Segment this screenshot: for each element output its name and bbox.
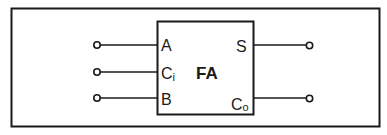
terminal-b <box>94 95 100 101</box>
output-co <box>253 95 313 101</box>
label-b: B <box>161 91 172 108</box>
terminal-s <box>306 42 312 48</box>
output-s <box>253 42 313 48</box>
block-label: FA <box>196 64 218 83</box>
input-a <box>94 42 158 48</box>
label-a: A <box>161 37 172 54</box>
input-b <box>94 95 158 101</box>
full-adder-diagram: A Ci B FA S Co <box>0 0 387 135</box>
terminal-co <box>306 95 312 101</box>
terminal-a <box>94 42 100 48</box>
terminal-ci <box>94 69 100 75</box>
input-ci <box>94 69 158 75</box>
label-s: S <box>236 38 247 55</box>
